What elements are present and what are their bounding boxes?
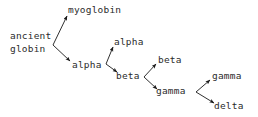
phylogenetic-tree-diagram: ancient globin myoglobin alpha alpha bet… xyxy=(0,0,258,117)
edge-ancientglobin-alpha xyxy=(53,45,70,61)
edge-ancientglobin-myoglobin xyxy=(53,16,67,45)
node-delta: delta xyxy=(214,100,244,111)
edge-beta-beta xyxy=(144,64,156,77)
edge-gamma-delta xyxy=(196,92,214,103)
node-beta-2: beta xyxy=(158,54,182,65)
node-gamma-1: gamma xyxy=(156,85,186,96)
node-ancient: ancient xyxy=(10,30,51,41)
node-gamma-2: gamma xyxy=(212,70,242,81)
node-alpha-2: alpha xyxy=(114,36,144,47)
node-alpha-1: alpha xyxy=(72,59,102,70)
edge-gamma-gamma xyxy=(196,80,210,92)
node-beta-1: beta xyxy=(116,70,140,81)
edge-alpha-alpha xyxy=(106,47,113,64)
node-globin: globin xyxy=(10,43,46,54)
node-myoglobin: myoglobin xyxy=(68,4,121,15)
